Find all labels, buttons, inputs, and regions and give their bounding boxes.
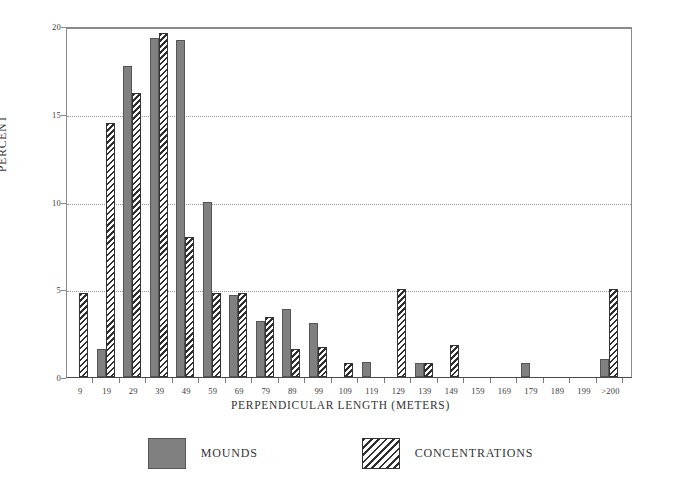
x-axis-tick-label: 29 xyxy=(129,386,138,396)
x-axis-tick-label: 59 xyxy=(208,386,217,396)
x-axis-tick-label: 19 xyxy=(102,386,111,396)
x-axis-tick-mark xyxy=(251,378,252,383)
bar-group xyxy=(309,28,336,377)
plot-area xyxy=(66,27,632,378)
x-axis-tick-mark xyxy=(92,378,93,383)
x-axis-tick-mark xyxy=(172,378,173,383)
bar-concentrations-139 xyxy=(424,363,433,377)
bar-concentrations-79 xyxy=(265,317,274,377)
bar-group xyxy=(547,28,574,377)
bar-group xyxy=(335,28,362,377)
y-axis-tick-label: 0 xyxy=(21,373,61,383)
x-axis-tick-mark xyxy=(198,378,199,383)
bar-concentrations-149 xyxy=(450,345,459,377)
x-axis-title: PERPENDICULAR LENGTH (METERS) xyxy=(0,399,681,411)
x-axis-tick-label: 199 xyxy=(577,386,590,396)
y-axis-tick-label: 5 xyxy=(21,285,61,295)
bar-group xyxy=(97,28,124,377)
x-axis-tick-label: >200 xyxy=(601,386,619,396)
x-axis-tick-mark xyxy=(410,378,411,383)
x-axis-tick-label: 39 xyxy=(155,386,164,396)
bar-group xyxy=(521,28,548,377)
x-axis-tick-mark xyxy=(119,378,120,383)
x-axis-tick-mark xyxy=(278,378,279,383)
bar-concentrations-89 xyxy=(291,349,300,377)
legend-swatch-concentrations-icon xyxy=(362,438,400,469)
x-axis-tick-mark xyxy=(490,378,491,383)
legend-item-mounds: MOUNDS xyxy=(148,438,258,469)
x-axis-tick-mark xyxy=(543,378,544,383)
x-axis-tick-mark xyxy=(384,378,385,383)
x-axis-tick-mark xyxy=(331,378,332,383)
x-axis-tick-label: 129 xyxy=(392,386,405,396)
bar-group xyxy=(494,28,521,377)
y-axis-tick-label: 15 xyxy=(21,110,61,120)
x-axis-tick-mark xyxy=(463,378,464,383)
bar-mounds-99 xyxy=(309,323,318,377)
bar-mounds-69 xyxy=(229,295,238,377)
bar-concentrations-39 xyxy=(159,33,168,377)
y-axis-title: PERCENT xyxy=(0,115,8,172)
bar-mounds-59 xyxy=(203,202,212,378)
x-axis-tick-mark xyxy=(437,378,438,383)
bar-mounds-19 xyxy=(97,349,106,377)
bar-concentrations-19 xyxy=(106,123,115,377)
y-axis-tick-label: 20 xyxy=(21,22,61,32)
bar-mounds-29 xyxy=(123,66,132,377)
x-axis-tick-mark xyxy=(516,378,517,383)
legend-label-concentrations: CONCENTRATIONS xyxy=(415,446,534,461)
x-axis-tick-mark xyxy=(596,378,597,383)
bar-concentrations-59 xyxy=(212,293,221,377)
x-axis-tick-mark xyxy=(145,378,146,383)
x-axis-tick-mark xyxy=(569,378,570,383)
x-axis-tick-label: 169 xyxy=(498,386,511,396)
bar-group xyxy=(150,28,177,377)
bar-concentrations-109 xyxy=(344,363,353,377)
x-axis-tick-mark xyxy=(225,378,226,383)
y-axis-tick-label: 10 xyxy=(21,198,61,208)
bar-group xyxy=(176,28,203,377)
bar-group xyxy=(441,28,468,377)
bar-mounds-49 xyxy=(176,40,185,377)
bar-group xyxy=(203,28,230,377)
bar-mounds-179 xyxy=(521,363,530,377)
bar-mounds-119 xyxy=(362,362,371,377)
bar-group xyxy=(362,28,389,377)
chart-legend: MOUNDS CONCENTRATIONS xyxy=(0,438,681,469)
bar-group xyxy=(229,28,256,377)
bar-concentrations-29 xyxy=(132,93,141,377)
x-axis-tick-label: 69 xyxy=(235,386,244,396)
x-axis-tick-label: 89 xyxy=(288,386,297,396)
x-axis-tick-label: 139 xyxy=(418,386,431,396)
bar-concentrations->200 xyxy=(609,289,618,377)
bar-mounds->200 xyxy=(600,359,609,377)
bar-group xyxy=(468,28,495,377)
bar-group xyxy=(282,28,309,377)
bar-group xyxy=(600,28,627,377)
bar-group xyxy=(123,28,150,377)
bar-group xyxy=(574,28,601,377)
x-axis-tick-label: 149 xyxy=(445,386,458,396)
bar-group xyxy=(256,28,283,377)
bar-concentrations-99 xyxy=(318,347,327,377)
legend-swatch-mounds-icon xyxy=(148,438,186,469)
bar-concentrations-49 xyxy=(185,237,194,377)
bar-concentrations-129 xyxy=(397,289,406,377)
x-axis-tick-mark xyxy=(357,378,358,383)
legend-label-mounds: MOUNDS xyxy=(201,446,258,461)
x-axis-tick-label: 79 xyxy=(261,386,270,396)
bar-concentrations-9 xyxy=(79,293,88,377)
bar-mounds-39 xyxy=(150,38,159,377)
bar-concentrations-69 xyxy=(238,293,247,377)
x-axis-tick-mark xyxy=(622,378,623,383)
x-axis-tick-label: 179 xyxy=(524,386,537,396)
bar-group xyxy=(415,28,442,377)
x-axis-tick-mark xyxy=(304,378,305,383)
x-axis-tick-label: 119 xyxy=(365,386,378,396)
x-axis-tick-label: 9 xyxy=(78,386,82,396)
x-axis-tick-label: 159 xyxy=(471,386,484,396)
x-axis-tick-label: 109 xyxy=(339,386,352,396)
x-axis-tick-label: 49 xyxy=(182,386,191,396)
x-axis-tick-label: 189 xyxy=(551,386,564,396)
legend-item-concentrations: CONCENTRATIONS xyxy=(362,438,534,469)
